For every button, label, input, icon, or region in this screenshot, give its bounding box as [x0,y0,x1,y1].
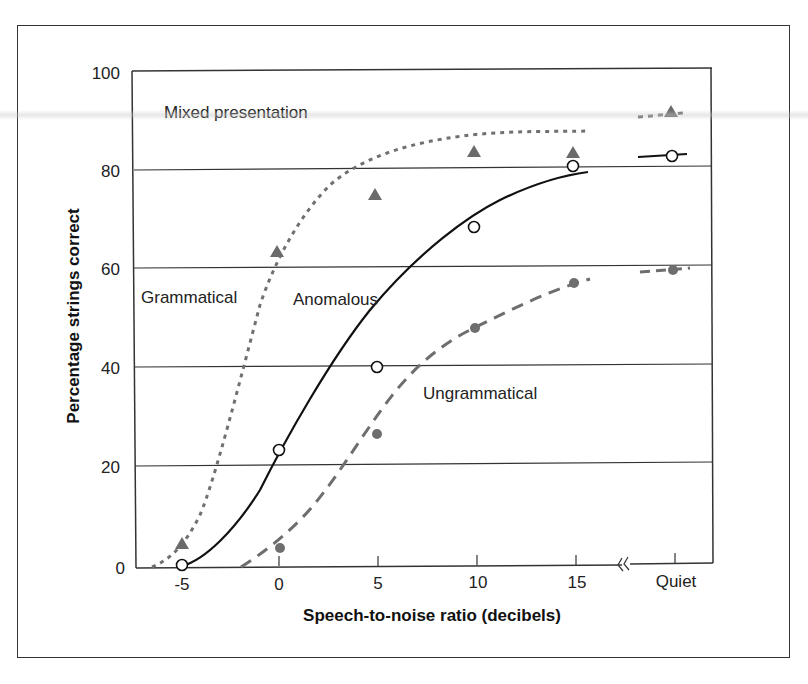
svg-text:100: 100 [92,64,120,83]
svg-text:Quiet: Quiet [656,572,697,591]
annotation-grammatical: Grammatical [141,288,237,307]
gridlines [134,166,713,466]
svg-text:20: 20 [101,458,120,477]
svg-text:10: 10 [469,573,488,592]
y-axis-title: Percentage strings correct [64,208,83,424]
svg-text:40: 40 [101,359,120,378]
anomalous-quiet-segment [638,154,687,157]
chart-svg: 100 80 60 40 20 0 -5 0 5 10 15 Quiet Spe… [0,0,808,684]
svg-text:5: 5 [373,574,382,593]
svg-text:-5: -5 [174,575,189,594]
svg-text:60: 60 [101,260,120,279]
svg-text:0: 0 [116,559,125,578]
ungrammatical-curve [241,279,590,567]
svg-text:0: 0 [274,575,283,594]
svg-text:15: 15 [568,573,587,592]
y-axis-ticks: 100 80 60 40 20 0 [92,64,125,578]
svg-text:80: 80 [101,162,120,181]
anomalous-curve [182,172,588,566]
annotation-ungrammatical: Ungrammatical [423,384,537,403]
scan-artifact-band [0,110,808,120]
x-axis-title: Speech-to-noise ratio (decibels) [303,606,561,625]
annotation-anomalous: Anomalous [293,290,378,309]
grammatical-curve [152,131,586,567]
x-axis-tick-labels: -5 0 5 10 15 Quiet [174,572,696,594]
grammatical-markers [175,105,678,549]
axis-break-icon [618,557,629,571]
ungrammatical-quiet-segment [640,268,690,272]
